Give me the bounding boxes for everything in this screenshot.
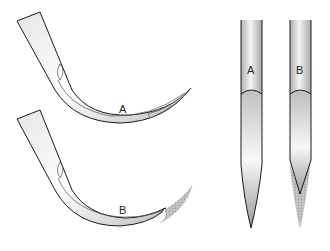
straight-needle-b-shaft <box>290 20 311 94</box>
curved-needle-b-removed-tip <box>160 186 192 223</box>
needle-diagram: A B A B <box>0 0 330 251</box>
curved-needle-a-body <box>17 12 191 123</box>
straight-needle-a-label: A <box>247 64 255 76</box>
straight-needle-b: B <box>290 20 311 228</box>
straight-needle-b-label: B <box>296 64 303 76</box>
straight-needle-a: A <box>241 20 262 228</box>
curved-needle-b: B <box>17 110 192 226</box>
curved-needle-b-label: B <box>119 204 126 216</box>
straight-needle-a-shaft <box>241 20 262 94</box>
curved-needle-a: A <box>17 12 191 123</box>
curved-needle-b-body <box>17 110 166 226</box>
curved-needle-a-label: A <box>119 103 127 115</box>
straight-needle-a-tip <box>241 90 262 228</box>
